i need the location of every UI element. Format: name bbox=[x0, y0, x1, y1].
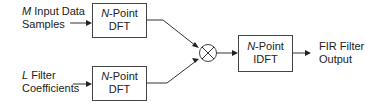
arrowhead-icon bbox=[305, 50, 311, 56]
output-label-line2: Output bbox=[319, 53, 352, 65]
input-label-l-line2: Coefficients bbox=[22, 82, 80, 94]
idft-box-label: N-Point bbox=[247, 40, 284, 52]
dft-box-2-label-line2: DFT bbox=[109, 83, 131, 95]
dft-box-1-label-line2: DFT bbox=[109, 20, 131, 32]
fir-filter-block-diagram: M Input Data Samples L Filter Coefficien… bbox=[0, 0, 373, 105]
arrowhead-icon bbox=[192, 58, 199, 63]
input-label-m: M Input Data bbox=[22, 5, 86, 17]
multiply-icon bbox=[200, 45, 217, 62]
line-dft1-to-multiplier bbox=[146, 20, 196, 46]
arrowhead-icon bbox=[192, 42, 199, 48]
input-label-l: L Filter bbox=[22, 69, 56, 81]
arrowhead-icon bbox=[86, 20, 92, 26]
dft-box-1-label: N-Point bbox=[101, 7, 138, 19]
arrowhead-icon bbox=[86, 81, 92, 87]
input-label-m-line2: Samples bbox=[22, 18, 65, 30]
dft-box-2-label: N-Point bbox=[101, 70, 138, 82]
idft-box-label-line2: IDFT bbox=[253, 53, 278, 65]
arrowhead-icon bbox=[232, 50, 238, 56]
output-label: FIR Filter bbox=[319, 40, 365, 52]
line-dft2-to-multiplier bbox=[146, 61, 196, 83]
